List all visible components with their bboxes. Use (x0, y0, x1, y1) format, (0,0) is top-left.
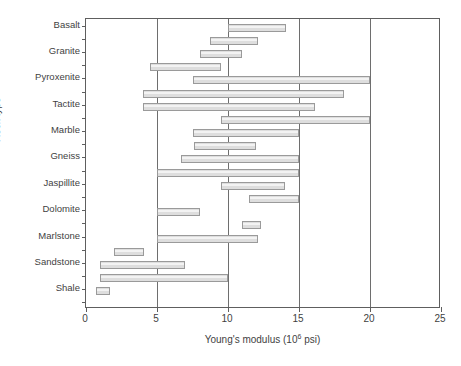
y-tick-15 (82, 223, 86, 224)
y-category-label-gneiss: Gneiss (50, 151, 80, 161)
y-tick-9 (82, 144, 86, 145)
x-tick-15 (299, 307, 300, 312)
x-tick-label-5: 5 (141, 313, 171, 324)
y-tick-18 (82, 263, 86, 264)
x-tick-0 (86, 307, 87, 312)
y-tick-17 (82, 250, 86, 251)
x-tick-10 (228, 307, 229, 312)
y-tick-6 (82, 105, 86, 106)
y-tick-0 (82, 26, 86, 27)
x-tick-5 (157, 307, 158, 312)
bar-pyroxenite-2 (143, 90, 345, 98)
x-tick-label-0: 0 (70, 313, 100, 324)
bar-tactite-2 (221, 116, 370, 124)
y-tick-12 (82, 184, 86, 185)
y-category-label-sandstone: Sandstone (35, 257, 80, 267)
y-tick-11 (82, 171, 86, 172)
bar-marlstone-2 (114, 248, 144, 256)
y-category-label-jaspillite: Jaspillite (44, 178, 80, 188)
y-category-label-tactite: Tactite (53, 99, 80, 109)
x-tick-label-10: 10 (212, 313, 242, 324)
gridline-x-15 (299, 19, 300, 307)
bar-sandstone-1 (100, 261, 185, 269)
bar-basalt-1 (228, 24, 286, 32)
y-tick-10 (82, 157, 86, 158)
y-tick-21 (82, 302, 86, 303)
x-tick-label-20: 20 (354, 313, 384, 324)
bar-marble-1 (193, 129, 300, 137)
y-tick-19 (82, 276, 86, 277)
bar-marble-2 (194, 142, 256, 150)
y-category-label-basalt: Basalt (54, 20, 80, 30)
x-tick-20 (370, 307, 371, 312)
y-tick-1 (82, 39, 86, 40)
y-tick-14 (82, 210, 86, 211)
bar-granite-1 (200, 50, 243, 58)
y-category-label-shale: Shale (56, 283, 80, 293)
bar-jaspillite-2 (249, 195, 299, 203)
rock-modulus-chart: Rock type Young's modulus (106 psi) 0510… (0, 0, 461, 366)
y-tick-13 (82, 197, 86, 198)
bar-tactite-1 (143, 103, 315, 111)
bar-pyroxenite-1 (193, 76, 371, 84)
bar-sandstone-2 (100, 274, 228, 282)
x-tick-label-15: 15 (283, 313, 313, 324)
bar-marlstone-1 (157, 235, 258, 243)
y-tick-5 (82, 92, 86, 93)
bar-dolomite-2 (242, 221, 260, 229)
y-category-label-marlstone: Marlstone (38, 231, 80, 241)
y-tick-8 (82, 131, 86, 132)
plot-area (85, 18, 440, 308)
y-category-label-pyroxenite: Pyroxenite (35, 72, 80, 82)
x-axis-title-base: Young's modulus (10 (205, 334, 298, 345)
y-category-label-marble: Marble (51, 125, 80, 135)
y-tick-2 (82, 52, 86, 53)
x-tick-25 (441, 307, 442, 312)
bar-gneiss-2 (157, 169, 299, 177)
x-axis-title: Young's modulus (106 psi) (85, 334, 440, 345)
y-tick-4 (82, 78, 86, 79)
y-category-label-granite: Granite (49, 46, 80, 56)
y-tick-16 (82, 237, 86, 238)
bar-shale-1 (96, 287, 110, 295)
bar-dolomite-1 (157, 208, 200, 216)
y-tick-3 (82, 65, 86, 66)
y-tick-7 (82, 118, 86, 119)
x-tick-label-25: 25 (425, 313, 455, 324)
x-axis-title-tail: psi) (301, 334, 320, 345)
bar-gneiss-1 (181, 155, 299, 163)
y-category-label-dolomite: Dolomite (43, 204, 81, 214)
y-tick-20 (82, 289, 86, 290)
bar-jaspillite-1 (221, 182, 285, 190)
bar-basalt-2 (210, 37, 258, 45)
bar-granite-2 (150, 63, 221, 71)
y-axis-title: Rock type (0, 98, 2, 142)
gridline-x-20 (370, 19, 371, 307)
